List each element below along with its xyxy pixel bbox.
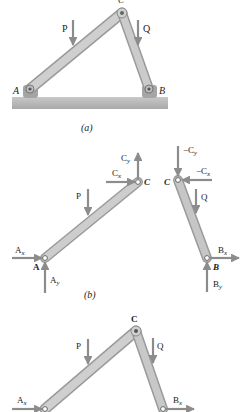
label-cy: Cy <box>121 153 131 165</box>
label-b-b: B <box>212 262 219 272</box>
label-q-b: Q <box>201 192 208 202</box>
label-p-b: P <box>76 191 81 201</box>
label-q-c: Q <box>157 341 164 351</box>
label-q: Q <box>143 23 151 34</box>
caption-a: (a) <box>81 122 93 134</box>
label-bx: Bx <box>218 245 228 257</box>
label-c-bc: C <box>164 177 171 187</box>
label-c-c: C <box>131 314 138 324</box>
label-a-b: A <box>33 262 40 272</box>
label-p-c: P <box>76 341 81 351</box>
label-ax: Ax <box>15 245 26 257</box>
label-neg-cy: −Cy <box>183 145 198 157</box>
label-ay: Ay <box>50 275 61 287</box>
figure-canvas: P Q A B C (a) Cy Cx C P Ax A Ay <box>0 0 249 412</box>
panel-a: P Q A B C (a) <box>12 0 168 134</box>
label-neg-cx: −Cx <box>196 166 211 178</box>
label-p: P <box>62 23 68 34</box>
label-c: C <box>118 0 125 5</box>
caption-b: (b) <box>84 289 96 301</box>
label-b: B <box>159 85 165 96</box>
ground <box>12 97 168 109</box>
label-by: By <box>213 279 223 291</box>
label-ax-c: Ax <box>17 395 28 407</box>
label-c-ac: C <box>144 177 151 187</box>
label-cx: Cx <box>112 168 122 180</box>
panel-c: C P Q Ax Bx <box>12 314 194 411</box>
label-a: A <box>12 85 20 96</box>
label-bx-c: Bx <box>173 395 183 407</box>
panel-b: Cy Cx C P Ax A Ay −Cy −Cx C Q Bx B By (b… <box>12 145 239 301</box>
